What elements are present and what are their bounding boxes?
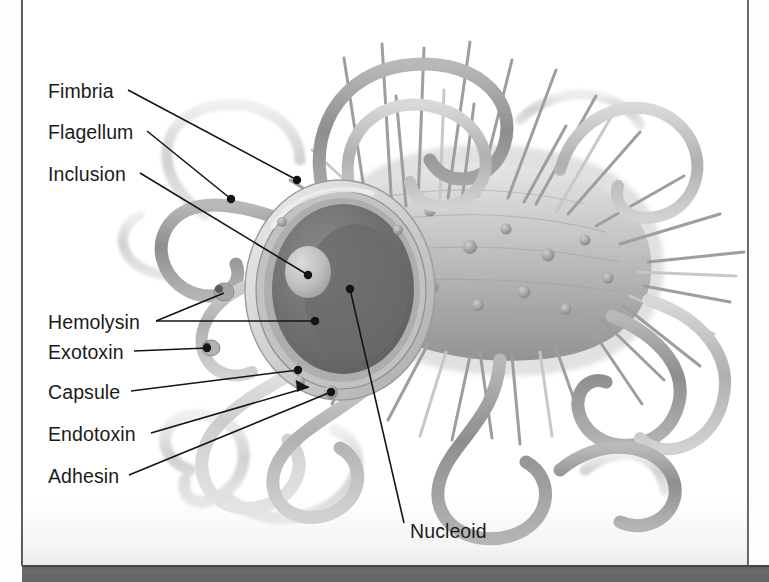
- page-edge-line-left: [21, 0, 23, 566]
- label-endotoxin: Endotoxin: [48, 425, 136, 445]
- page-edge-line-right: [747, 0, 749, 566]
- page-bottom-band: [22, 565, 769, 582]
- scanned-figure-page: FimbriaFlagellumInclusionHemolysinExotox…: [0, 0, 769, 582]
- label-adhesin: Adhesin: [48, 467, 119, 487]
- page-paper: [23, 0, 747, 565]
- label-flagellum: Flagellum: [48, 123, 133, 143]
- label-exotoxin: Exotoxin: [48, 343, 124, 363]
- label-fimbria: Fimbria: [48, 82, 114, 102]
- label-capsule: Capsule: [48, 383, 120, 403]
- label-hemolysin: Hemolysin: [48, 313, 140, 333]
- label-inclusion: Inclusion: [48, 165, 126, 185]
- label-nucleoid: Nucleoid: [410, 522, 487, 542]
